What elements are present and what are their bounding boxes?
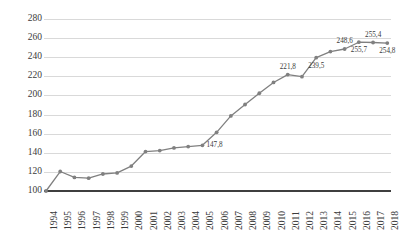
data-point-label: 221,8 <box>280 64 296 71</box>
y-axis-tick-label: 240 <box>28 52 42 62</box>
y-axis-tick-label: 220 <box>28 71 42 81</box>
data-point-label: 254,8 <box>379 48 395 55</box>
y-axis-tick-label: 260 <box>28 33 42 43</box>
data-point-label: 255,4 <box>365 32 381 39</box>
data-point-label: 248,6 <box>337 38 353 45</box>
y-axis-tick-label: 280 <box>28 14 42 24</box>
data-labels: 147,8221,8239,5248,6255,7255,4254,8 <box>44 0 391 232</box>
y-axis-tick-label: 120 <box>28 167 42 177</box>
y-axis-tick-label: 140 <box>28 148 42 158</box>
y-axis-tick-label: 180 <box>28 110 42 120</box>
data-point-label: 147,8 <box>206 142 222 149</box>
y-axis-tick-label: 200 <box>28 90 42 100</box>
data-point-label: 255,7 <box>351 47 367 54</box>
data-point-label: 239,5 <box>308 63 324 70</box>
y-axis-tick-label: 100 <box>28 186 42 196</box>
y-axis: 100120140160180200220240260280 <box>0 0 42 232</box>
x-axis-tick-label: 2018 <box>391 211 401 230</box>
y-axis-tick-label: 160 <box>28 129 42 139</box>
